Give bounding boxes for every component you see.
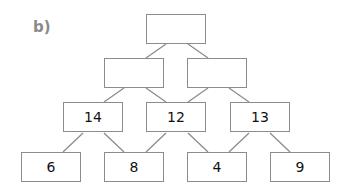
pyramid-box-r2-2[interactable] <box>187 58 247 88</box>
pyramid-box-r2-1[interactable] <box>104 58 164 88</box>
pyramid-box-top[interactable] <box>146 14 206 44</box>
pyramid-box-r3-2: 12 <box>146 102 206 132</box>
pyramid-box-r4-2: 8 <box>104 152 164 182</box>
pyramid-box-r4-3: 4 <box>187 152 247 182</box>
pyramid-box-r4-1: 6 <box>21 152 81 182</box>
pyramid-box-r3-3: 13 <box>230 102 290 132</box>
pyramid-box-r4-4: 9 <box>270 152 330 182</box>
pyramid-box-r3-1: 14 <box>63 102 123 132</box>
